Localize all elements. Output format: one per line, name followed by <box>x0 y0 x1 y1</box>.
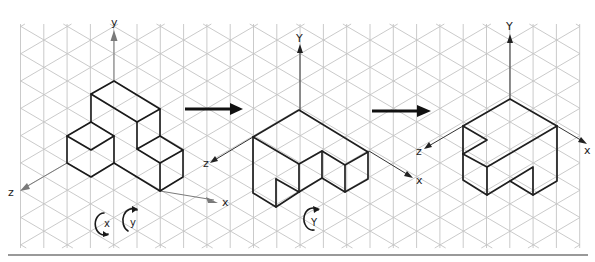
transition-arrow-2 <box>372 105 431 117</box>
isometric-rotation-figure: y z x x y Y z x <box>0 0 595 262</box>
stage1-x-arrowhead-icon <box>206 197 218 203</box>
stage2-x-label: x <box>416 174 423 187</box>
stage2-x-axis <box>369 151 410 176</box>
stage1-x-label: x <box>222 196 229 209</box>
stage2-y-arrowhead-icon <box>297 44 303 53</box>
stage2-y-label: Y <box>295 32 303 45</box>
stage1-y-arrowhead-icon <box>111 30 118 41</box>
stage3-y-label: Y <box>505 20 513 33</box>
stage3-z-label: z <box>416 145 422 158</box>
stage2-rotate-y-label: Y <box>310 217 318 228</box>
stage1-y-label: y <box>111 16 118 29</box>
stage3-x-label: x <box>584 144 591 157</box>
rotate-y-label: y <box>130 217 136 228</box>
figure-canvas: y z x x y Y z x <box>0 0 595 262</box>
stage1-shape: y z x x y <box>8 16 229 237</box>
stage2-z-label: z <box>203 157 209 170</box>
stage3-z-axis <box>427 126 463 147</box>
stage1-x-axis <box>160 191 214 200</box>
stage1-z-label: z <box>8 186 14 199</box>
stage1-z-axis <box>24 163 67 188</box>
stage1-z-arrowhead-icon <box>20 183 30 191</box>
stage2-z-axis <box>213 137 253 161</box>
rotate-x-label: x <box>104 218 110 229</box>
right-arrow-icon <box>230 103 243 115</box>
